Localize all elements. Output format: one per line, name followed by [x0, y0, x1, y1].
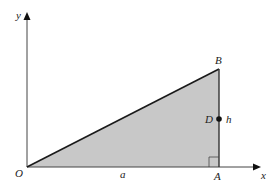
diagram-canvas: y x O A B D h a: [0, 0, 278, 188]
y-axis-label: y: [15, 9, 21, 21]
base-label: a: [120, 168, 126, 180]
point-b-label: B: [215, 54, 222, 66]
point-d-label: D: [204, 113, 213, 125]
height-label: h: [226, 113, 232, 125]
point-d: [216, 116, 222, 122]
x-axis-label: x: [260, 169, 266, 181]
origin-label: O: [15, 167, 23, 179]
y-axis-arrow-icon: [24, 12, 31, 20]
point-a-label: A: [213, 170, 221, 182]
x-axis-arrow-icon: [253, 164, 261, 171]
